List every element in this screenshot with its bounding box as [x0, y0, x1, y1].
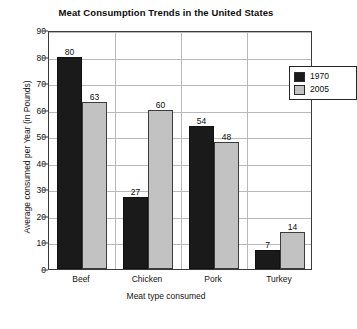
bar-beef-2005[interactable] — [82, 102, 107, 269]
x-tick-label-chicken: Chicken — [132, 274, 163, 284]
y-tick-mark — [42, 243, 48, 244]
x-tick-label-turkey: Turkey — [266, 274, 292, 284]
y-tick-mark — [42, 57, 48, 58]
bar-chicken-1970[interactable] — [123, 197, 148, 269]
chart-title: Meat Consumption Trends in the United St… — [0, 7, 332, 18]
bar-chicken-2005[interactable] — [148, 110, 173, 269]
bar-value-label: 48 — [210, 132, 243, 142]
bar-value-label: 80 — [53, 47, 86, 57]
legend-label-2005: 2005 — [310, 85, 329, 94]
bars-layer: 806327605448714 — [49, 32, 311, 269]
y-tick-mark — [42, 163, 48, 164]
y-tick-mark — [42, 84, 48, 85]
legend-item-1970[interactable]: 1970 — [294, 70, 352, 83]
y-tick-mark — [42, 137, 48, 138]
y-tick-mark — [42, 190, 48, 191]
y-tick-mark — [42, 31, 48, 32]
bar-turkey-2005[interactable] — [280, 232, 305, 269]
bar-pork-1970[interactable] — [189, 126, 214, 269]
x-tick-label-pork: Pork — [204, 274, 221, 284]
x-axis-title: Meat type consumed — [0, 291, 332, 301]
bar-value-label: 54 — [185, 116, 218, 126]
y-tick-mark — [42, 110, 48, 111]
legend-item-2005[interactable]: 2005 — [294, 83, 352, 96]
x-tick-label-beef: Beef — [72, 274, 90, 284]
legend: 1970 2005 — [289, 66, 357, 100]
legend-swatch-2005-icon — [294, 85, 305, 95]
bar-turkey-1970[interactable] — [255, 250, 280, 269]
legend-swatch-1970-icon — [294, 72, 305, 82]
bar-beef-1970[interactable] — [57, 57, 82, 269]
bar-value-label: 63 — [78, 92, 111, 102]
bar-value-label: 14 — [276, 222, 309, 232]
plot-area: 806327605448714 1970 2005 — [48, 31, 312, 270]
bar-value-label: 60 — [144, 100, 177, 110]
y-tick-mark — [42, 270, 48, 271]
legend-label-1970: 1970 — [310, 72, 329, 81]
y-tick-mark — [42, 216, 48, 217]
bar-pork-2005[interactable] — [214, 142, 239, 269]
